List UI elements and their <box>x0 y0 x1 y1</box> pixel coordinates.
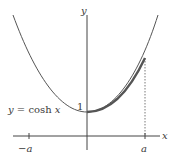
chart-canvas: y x −a a 1 y = cosh x <box>0 0 174 159</box>
tick-label-neg-a: −a <box>18 143 32 154</box>
cosh-curve <box>13 15 158 112</box>
y-axis-label: y <box>80 5 87 16</box>
tick-label-a: a <box>141 143 147 154</box>
eq-x: x <box>55 104 61 115</box>
cosh-curve-highlight <box>87 58 145 112</box>
curve-equation-label: y = cosh x <box>7 104 61 115</box>
eq-mid: = cosh <box>14 104 55 115</box>
y-intercept-label: 1 <box>77 101 83 112</box>
cosh-figure: y x −a a 1 y = cosh x <box>0 0 174 159</box>
x-axis-label: x <box>162 130 168 141</box>
